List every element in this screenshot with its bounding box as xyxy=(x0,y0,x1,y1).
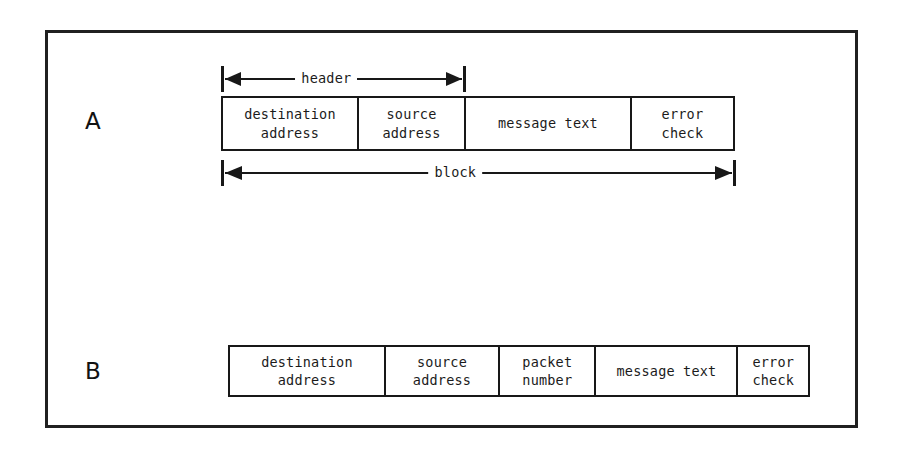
part-label-a: A xyxy=(85,110,101,133)
field-b-source-address: source address xyxy=(386,347,500,395)
field-a-error-check: error check xyxy=(632,98,733,149)
field-b-message-text: message text xyxy=(596,347,738,395)
field-a-message-text: message text xyxy=(466,98,632,149)
dimension-arrow-header: header xyxy=(221,66,466,92)
field-b-destination-address: destination address xyxy=(230,347,386,395)
part-label-b: B xyxy=(85,360,101,383)
dimension-label-header: header xyxy=(295,72,357,86)
field-a-source-address: source address xyxy=(359,98,466,149)
frame-b: destination address source address packe… xyxy=(228,345,810,397)
field-a-destination-address: destination address xyxy=(223,98,359,149)
field-b-error-check: error check xyxy=(738,347,808,395)
field-b-packet-number: packet number xyxy=(500,347,596,395)
dimension-label-block: block xyxy=(428,166,482,180)
dimension-arrow-block: block xyxy=(221,160,736,186)
frame-a: destination address source address messa… xyxy=(221,96,735,151)
